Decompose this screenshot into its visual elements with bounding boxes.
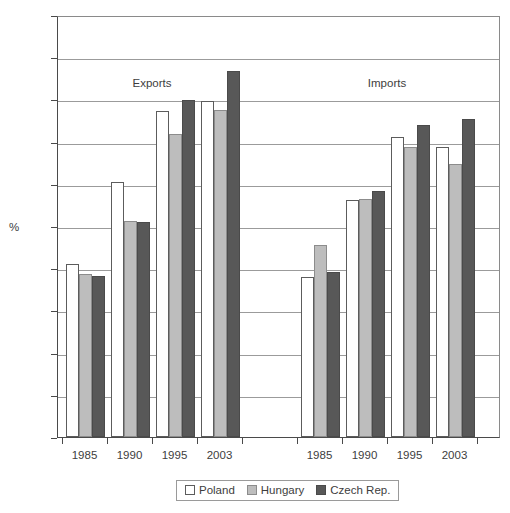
bar-imports-1985-czech-rep: [327, 272, 340, 437]
legend-swatch-icon: [247, 485, 257, 495]
bar-exports-1990-hungary: [124, 221, 137, 437]
bar-chart-figure: % 0102030405060708090100 198519901995200…: [0, 0, 510, 513]
bar-exports-1995-poland: [156, 111, 169, 437]
bar-exports-1990-czech-rep: [137, 222, 150, 437]
x-tick-mark: [432, 438, 433, 444]
x-tick-mark: [297, 438, 298, 444]
gridline: [58, 101, 499, 102]
gridline: [58, 144, 499, 145]
legend-swatch-icon: [316, 485, 326, 495]
x-tick-mark: [387, 438, 388, 444]
x-tick-mark: [62, 438, 63, 444]
legend-label: Czech Rep.: [330, 484, 390, 496]
y-tick-mark: [51, 438, 57, 439]
bar-exports-1985-czech-rep: [92, 276, 105, 437]
section-label-exports: Exports: [107, 77, 197, 89]
bar-exports-2003-hungary: [214, 110, 227, 437]
bar-exports-1995-hungary: [169, 134, 182, 437]
bar-imports-1995-czech-rep: [417, 125, 430, 437]
legend-item-hungary: Hungary: [247, 484, 304, 496]
legend-swatch-icon: [185, 485, 195, 495]
legend-item-czech-rep: Czech Rep.: [316, 484, 390, 496]
x-tick-label-imports-2003: 2003: [425, 449, 485, 461]
x-tick-mark: [197, 438, 198, 444]
bar-imports-1985-hungary: [314, 245, 327, 437]
bar-imports-2003-czech-rep: [462, 119, 475, 437]
legend-label: Poland: [199, 484, 235, 496]
bar-imports-1990-poland: [346, 200, 359, 437]
x-tick-mark: [242, 438, 243, 444]
bar-imports-1990-czech-rep: [372, 191, 385, 437]
chart-legend: PolandHungaryCzech Rep.: [176, 480, 399, 501]
bar-exports-1995-czech-rep: [182, 100, 195, 437]
bar-exports-2003-czech-rep: [227, 71, 240, 437]
x-tick-mark: [107, 438, 108, 444]
x-tick-label-exports-2003: 2003: [190, 449, 250, 461]
gridline: [58, 186, 499, 187]
bar-exports-1985-poland: [66, 264, 79, 437]
legend-label: Hungary: [261, 484, 304, 496]
legend-item-poland: Poland: [185, 484, 235, 496]
bar-imports-1985-poland: [301, 277, 314, 437]
bar-exports-1985-hungary: [79, 274, 92, 437]
bar-exports-2003-poland: [201, 101, 214, 437]
bar-exports-1990-poland: [111, 182, 124, 437]
y-axis-title: %: [9, 221, 19, 233]
x-tick-mark: [477, 438, 478, 444]
gridline: [58, 59, 499, 60]
section-label-imports: Imports: [342, 77, 432, 89]
bar-imports-1990-hungary: [359, 199, 372, 437]
bar-imports-1995-hungary: [404, 147, 417, 437]
x-tick-mark: [152, 438, 153, 444]
bar-imports-2003-hungary: [449, 164, 462, 437]
bar-imports-2003-poland: [436, 147, 449, 437]
bar-imports-1995-poland: [391, 137, 404, 437]
x-tick-mark: [342, 438, 343, 444]
